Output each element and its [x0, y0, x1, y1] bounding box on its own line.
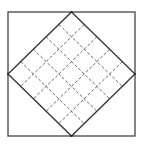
grid-line-a [33, 49, 97, 111]
grid-line-a [59, 24, 123, 86]
diamond-vertices [7, 11, 136, 137]
grid-line-b [33, 37, 97, 99]
grid-line-a [21, 62, 84, 124]
vertex-top [71, 11, 73, 13]
vertex-bottom [71, 135, 73, 137]
grid-line-a [46, 37, 110, 99]
diamond-grid-lines [21, 24, 123, 123]
vertex-left [7, 73, 9, 75]
diagram-canvas [0, 0, 145, 144]
inscribed-diamond [8, 12, 135, 136]
grid-line-b [21, 24, 84, 86]
grid-line-b [59, 62, 123, 124]
grid-line-b [46, 49, 110, 111]
vertex-right [134, 73, 136, 75]
outer-square [8, 12, 135, 136]
